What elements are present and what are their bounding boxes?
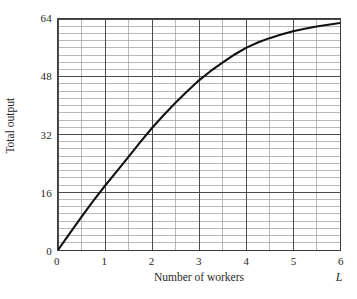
curve-path	[58, 23, 340, 250]
y-axis-tick-64: 64	[6, 13, 52, 24]
x-axis-tick-4: 4	[231, 256, 261, 267]
total-output-curve	[58, 19, 340, 250]
x-axis-tick-labels: 0123456	[0, 256, 357, 272]
x-axis-variable-label: L	[328, 271, 350, 283]
x-axis-tick-2: 2	[137, 256, 167, 267]
y-axis-tick-labels: 016324864	[0, 0, 52, 299]
production-function-chart: Total output 016324864 0123456 Number of…	[0, 0, 357, 299]
x-axis-tick-0: 0	[42, 256, 72, 267]
plot-area	[57, 18, 341, 251]
y-axis-tick-48: 48	[6, 71, 52, 82]
x-axis-tick-6: 6	[326, 256, 356, 267]
x-axis-title-label: Number of workers	[57, 272, 341, 284]
y-axis-tick-32: 32	[6, 130, 52, 141]
y-axis-tick-16: 16	[6, 188, 52, 199]
x-axis-tick-3: 3	[184, 256, 214, 267]
x-axis-tick-1: 1	[89, 256, 119, 267]
x-axis-tick-5: 5	[279, 256, 309, 267]
